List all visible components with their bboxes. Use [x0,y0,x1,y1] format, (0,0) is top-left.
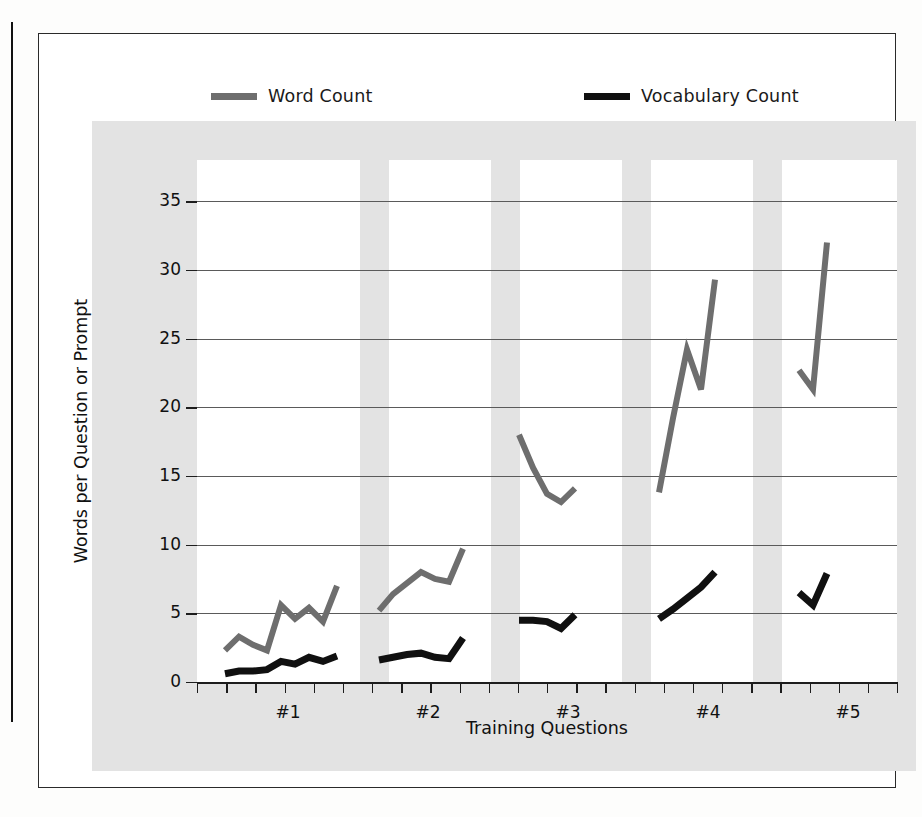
y-axis-title: Words per Question or Prompt [71,266,91,596]
series-line [379,549,463,611]
series-line [379,638,463,660]
series-line [799,573,827,605]
series-line [225,656,337,674]
page-root: Word Count Vocabulary Count 051015202530… [0,0,922,817]
page-edge-rule [11,22,13,722]
series-line [519,615,575,629]
series-line [225,586,337,651]
series-line [659,280,715,493]
chart-frame: Word Count Vocabulary Count 051015202530… [38,33,896,788]
series-line [799,242,827,389]
series-line [659,572,715,619]
x-tick-mark [897,682,898,693]
series-line [519,435,575,502]
x-axis-title: Training Questions [197,718,897,738]
series-lines [39,34,897,789]
